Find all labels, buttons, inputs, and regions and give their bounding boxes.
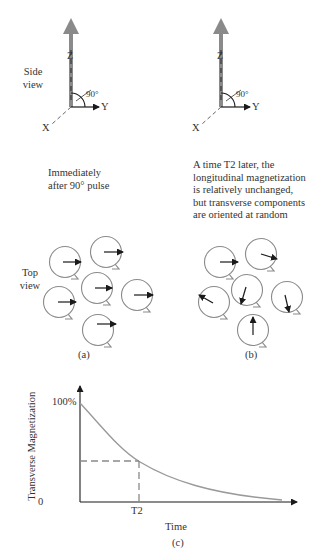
spin-a5 — [122, 280, 154, 313]
angle-label-a: 90° — [86, 88, 99, 101]
spin-a2 — [91, 237, 124, 270]
chart-caption: (c) — [172, 537, 184, 550]
axis-x-label-a: X — [42, 122, 50, 135]
y-tick-100: 100% — [52, 396, 77, 409]
spin-b4 — [199, 287, 230, 320]
top-view-label: Top view — [17, 267, 43, 292]
spin-b1 — [205, 247, 239, 280]
y-axis-title: Transverse Magnetization — [26, 386, 39, 506]
decay-chart — [80, 386, 297, 502]
panel-a-caption: Immediately after 90° pulse — [48, 167, 109, 192]
axis-z-label-b: Z — [217, 50, 223, 63]
x-tick-t2: T2 — [131, 505, 143, 518]
spin-a4 — [44, 287, 77, 320]
spin-b6 — [238, 315, 269, 348]
side-view-b-axes — [202, 18, 250, 124]
panel-a-label: (a) — [78, 349, 90, 362]
axis-z-label-a: Z — [67, 50, 73, 63]
axis-y-label-b: Y — [252, 101, 260, 114]
spin-b3 — [232, 275, 263, 308]
panel-b-label: (b) — [245, 349, 257, 362]
side-view-a-axes — [52, 18, 99, 124]
spin-a1 — [50, 247, 82, 280]
top-view-b-spins — [199, 239, 303, 348]
axis-y-label-a: Y — [101, 101, 109, 114]
spin-a6 — [83, 315, 117, 348]
spin-b2 — [246, 239, 278, 272]
spin-a3 — [82, 273, 113, 306]
x-axis-title: Time — [165, 521, 187, 534]
decay-curve — [80, 403, 282, 500]
side-view-label: Side view — [19, 66, 47, 91]
spin-b5 — [272, 282, 303, 315]
magnetization-vector-arrowhead-a — [63, 18, 79, 34]
top-view-a-spins — [44, 237, 154, 348]
angle-label-b: 90° — [236, 88, 249, 101]
magnetization-vector-arrowhead-b — [213, 18, 229, 34]
axis-x-label-b: X — [192, 122, 200, 135]
y-tick-0: 0 — [38, 496, 43, 509]
diagram-canvas — [0, 0, 336, 558]
panel-b-caption: A time T2 later, the longitudinal magnet… — [193, 159, 306, 222]
